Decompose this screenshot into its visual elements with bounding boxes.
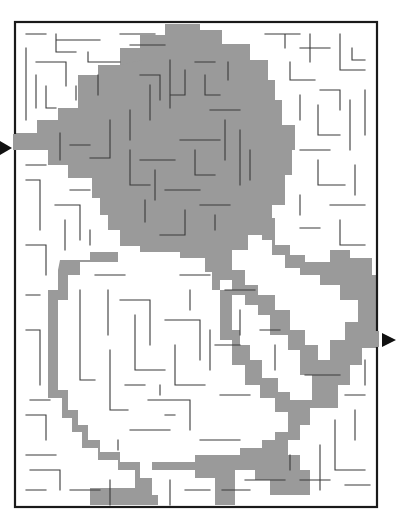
entry-gap [13,134,18,150]
exit-gap [374,331,379,347]
exit-arrow-icon [382,333,396,347]
maze-puzzle [0,0,410,531]
entry-arrow-icon [0,141,12,155]
solution-path [16,24,378,505]
